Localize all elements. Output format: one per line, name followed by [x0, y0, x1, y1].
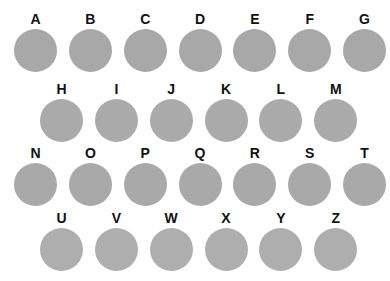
- specimen-row: N O P Q R S T: [14, 146, 390, 211]
- specimen-disc[interactable]: [124, 29, 167, 72]
- specimen-item[interactable]: W: [150, 211, 193, 271]
- specimen-label: B: [69, 12, 112, 26]
- specimen-item[interactable]: R: [233, 146, 276, 206]
- specimen-item[interactable]: L: [259, 82, 302, 142]
- specimen-disc[interactable]: [150, 228, 193, 271]
- specimen-item[interactable]: X: [205, 211, 248, 271]
- specimen-label: J: [150, 82, 193, 96]
- specimen-item[interactable]: A: [14, 12, 57, 72]
- specimen-disc[interactable]: [343, 163, 386, 206]
- specimen-item[interactable]: U: [40, 211, 83, 271]
- specimen-label: V: [95, 211, 138, 225]
- specimen-item[interactable]: Q: [179, 146, 222, 206]
- specimen-label: G: [343, 12, 386, 26]
- specimen-disc[interactable]: [150, 99, 193, 142]
- specimen-label: I: [95, 82, 138, 96]
- specimen-disc[interactable]: [233, 163, 276, 206]
- specimen-disc[interactable]: [259, 228, 302, 271]
- specimen-label: S: [288, 146, 331, 160]
- specimen-item[interactable]: E: [233, 12, 276, 72]
- specimen-label: T: [343, 146, 386, 160]
- specimen-disc[interactable]: [288, 29, 331, 72]
- specimen-item[interactable]: Z: [314, 211, 357, 271]
- specimen-disc[interactable]: [205, 99, 248, 142]
- specimen-label: W: [150, 211, 193, 225]
- specimen-disc[interactable]: [343, 29, 386, 72]
- specimen-disc[interactable]: [69, 163, 112, 206]
- specimen-disc[interactable]: [259, 99, 302, 142]
- specimen-row: U V W X Y Z: [40, 211, 365, 276]
- specimen-disc[interactable]: [95, 99, 138, 142]
- specimen-label: F: [288, 12, 331, 26]
- specimen-item[interactable]: H: [40, 82, 83, 142]
- specimen-disc[interactable]: [69, 29, 112, 72]
- specimen-disc[interactable]: [40, 99, 83, 142]
- specimen-label: X: [205, 211, 248, 225]
- specimen-label: C: [124, 12, 167, 26]
- specimen-disc[interactable]: [205, 228, 248, 271]
- specimen-item[interactable]: B: [69, 12, 112, 72]
- specimen-item[interactable]: F: [288, 12, 331, 72]
- specimen-item[interactable]: T: [343, 146, 386, 206]
- specimen-disc[interactable]: [288, 163, 331, 206]
- specimen-item[interactable]: C: [124, 12, 167, 72]
- specimen-label: Z: [314, 211, 357, 225]
- specimen-label: L: [259, 82, 302, 96]
- specimen-label: M: [314, 82, 357, 96]
- specimen-disc[interactable]: [314, 99, 357, 142]
- specimen-item[interactable]: M: [314, 82, 357, 142]
- specimen-item[interactable]: V: [95, 211, 138, 271]
- specimen-disc[interactable]: [124, 163, 167, 206]
- specimen-disc[interactable]: [95, 228, 138, 271]
- specimen-label: A: [14, 12, 57, 26]
- specimen-disc[interactable]: [40, 228, 83, 271]
- specimen-label: Y: [259, 211, 302, 225]
- specimen-item[interactable]: D: [179, 12, 222, 72]
- specimen-label: H: [40, 82, 83, 96]
- specimen-label: R: [233, 146, 276, 160]
- specimen-item[interactable]: P: [124, 146, 167, 206]
- specimen-item[interactable]: I: [95, 82, 138, 142]
- specimen-disc[interactable]: [179, 29, 222, 72]
- specimen-row: H I J K L M: [40, 82, 365, 147]
- specimen-label: K: [205, 82, 248, 96]
- specimen-disc[interactable]: [233, 29, 276, 72]
- specimen-disc[interactable]: [14, 163, 57, 206]
- specimen-item[interactable]: Y: [259, 211, 302, 271]
- specimen-label: U: [40, 211, 83, 225]
- specimen-disc[interactable]: [14, 29, 57, 72]
- specimen-label: N: [14, 146, 57, 160]
- specimen-disc[interactable]: [314, 228, 357, 271]
- specimen-label: O: [69, 146, 112, 160]
- specimen-item[interactable]: N: [14, 146, 57, 206]
- specimen-label: E: [233, 12, 276, 26]
- specimen-row: A B C D E F G: [14, 12, 390, 77]
- specimen-item[interactable]: S: [288, 146, 331, 206]
- specimen-item[interactable]: K: [205, 82, 248, 142]
- specimen-item[interactable]: J: [150, 82, 193, 142]
- specimen-label: D: [179, 12, 222, 26]
- specimen-label: P: [124, 146, 167, 160]
- specimen-disc[interactable]: [179, 163, 222, 206]
- specimen-item[interactable]: O: [69, 146, 112, 206]
- specimen-item[interactable]: G: [343, 12, 386, 72]
- specimen-label: Q: [179, 146, 222, 160]
